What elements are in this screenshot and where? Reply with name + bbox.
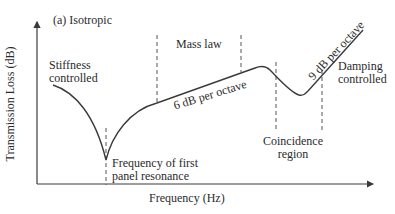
diagram-title: (a) Isotropic bbox=[53, 14, 112, 27]
x-axis-label: Frequency (Hz) bbox=[149, 192, 225, 205]
y-axis-label: Transmission Loss (dB) bbox=[4, 24, 17, 184]
coincidence-label: Coincidence region bbox=[263, 135, 323, 161]
resonance-label: Frequency of first panel resonance bbox=[112, 157, 198, 183]
transmission-loss-diagram: (a) Isotropic Transmission Loss (dB) Fre… bbox=[0, 0, 395, 214]
damping-label: Damping controlled bbox=[338, 60, 387, 86]
stiffness-label: Stiffness controlled bbox=[49, 59, 98, 85]
mass-law-label: Mass law bbox=[176, 38, 222, 51]
